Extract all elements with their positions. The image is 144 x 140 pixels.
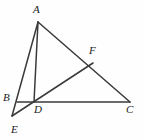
vertex-label-B: B — [3, 92, 10, 103]
vertex-label-F: F — [89, 45, 96, 56]
vertex-label-D: D — [34, 104, 42, 115]
vertex-label-E: E — [11, 124, 18, 135]
figure-canvas — [0, 0, 144, 140]
geometry-figure: A B C D E F — [0, 0, 144, 140]
vertex-label-A: A — [33, 4, 40, 15]
figure-strokes — [12, 22, 130, 116]
vertex-label-C: C — [126, 104, 133, 115]
